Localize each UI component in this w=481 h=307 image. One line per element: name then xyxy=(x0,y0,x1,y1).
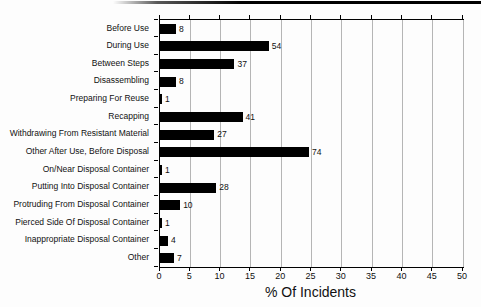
value-label: 8 xyxy=(179,77,184,86)
category-label: Inappropriate Disposal Container xyxy=(0,231,149,249)
category-label: Protruding From Disposal Container xyxy=(0,195,149,213)
bar xyxy=(160,147,309,157)
x-tick-label: 25 xyxy=(305,272,315,281)
category-label: Recapping xyxy=(0,107,149,125)
value-label: 41 xyxy=(246,113,255,122)
bar xyxy=(160,236,168,246)
bar-row: 8 xyxy=(160,73,463,91)
top-rule xyxy=(113,1,481,4)
x-axis-title: % Of Incidents xyxy=(159,285,462,300)
category-label: During Use xyxy=(0,37,149,55)
category-label: Between Steps xyxy=(0,54,149,72)
x-tick-labels: 05101520253035404550 xyxy=(159,272,462,283)
value-label: 10 xyxy=(183,201,192,210)
category-label: Before Use xyxy=(0,19,149,37)
category-label: Pierced Side Of Disposal Container xyxy=(0,213,149,231)
bar-row: 28 xyxy=(160,179,463,197)
category-label: Other xyxy=(0,248,149,266)
bar-row: 37 xyxy=(160,55,463,73)
x-tick-label: 20 xyxy=(275,272,285,281)
bar-row: 27 xyxy=(160,126,463,144)
category-labels: Before UseDuring UseBetween StepsDisasse… xyxy=(0,19,154,266)
bar-row: 7 xyxy=(160,249,463,267)
y-boundary-tick xyxy=(154,195,158,196)
bar xyxy=(160,59,234,69)
plot-area: 854378141277412810147 xyxy=(159,19,464,268)
bar xyxy=(160,200,180,210)
y-boundary-tick xyxy=(154,213,158,214)
y-boundary-tick xyxy=(154,54,158,55)
category-label: Putting Into Disposal Container xyxy=(0,178,149,196)
bar xyxy=(160,218,162,228)
y-boundary-tick xyxy=(154,71,158,72)
x-tick-label: 10 xyxy=(215,272,225,281)
bar xyxy=(160,41,269,51)
bar xyxy=(160,130,214,140)
x-tick-label: 0 xyxy=(156,272,161,281)
value-label: 1 xyxy=(165,219,170,228)
value-label: 37 xyxy=(237,60,246,69)
value-label: 54 xyxy=(272,42,281,51)
category-label: Disassembling xyxy=(0,72,149,90)
bar-row: 8 xyxy=(160,20,463,38)
x-tick-label: 40 xyxy=(396,272,406,281)
value-label: 8 xyxy=(179,25,184,34)
bar xyxy=(160,77,176,87)
bar xyxy=(160,183,216,193)
bar-row: 1 xyxy=(160,91,463,109)
value-label: 28 xyxy=(219,183,228,192)
value-label: 1 xyxy=(165,166,170,175)
category-label: Preparing For Reuse xyxy=(0,90,149,108)
y-boundary-tick xyxy=(154,266,158,267)
category-label: On/Near Disposal Container xyxy=(0,160,149,178)
figure: Before UseDuring UseBetween StepsDisasse… xyxy=(0,0,481,307)
bar xyxy=(160,112,243,122)
value-label: 1 xyxy=(165,95,170,104)
bar xyxy=(160,24,176,34)
bar-row: 4 xyxy=(160,232,463,250)
value-label: 74 xyxy=(312,148,321,157)
y-boundary-tick xyxy=(154,142,158,143)
y-boundary-tick xyxy=(154,36,158,37)
bar xyxy=(160,94,162,104)
y-boundary-tick xyxy=(154,107,158,108)
bar-row: 74 xyxy=(160,144,463,162)
category-label: Other After Use, Before Disposal xyxy=(0,143,149,161)
y-boundary-tick xyxy=(154,124,158,125)
y-boundary-tick xyxy=(154,177,158,178)
bar-row: 1 xyxy=(160,161,463,179)
y-boundary-tick xyxy=(154,248,158,249)
value-label: 27 xyxy=(217,130,226,139)
bar-row: 54 xyxy=(160,38,463,56)
y-boundary-tick xyxy=(154,230,158,231)
x-tick-label: 30 xyxy=(336,272,346,281)
x-tick-label: 45 xyxy=(427,272,437,281)
y-boundary-tick xyxy=(154,160,158,161)
bar-row: 10 xyxy=(160,196,463,214)
x-tick-label: 50 xyxy=(457,272,467,281)
bar-row: 41 xyxy=(160,108,463,126)
bar xyxy=(160,165,162,175)
x-tick-label: 35 xyxy=(366,272,376,281)
category-label: Withdrawing From Resistant Material xyxy=(0,125,149,143)
x-tick-label: 5 xyxy=(187,272,192,281)
bar-row: 1 xyxy=(160,214,463,232)
y-boundary-tick xyxy=(154,89,158,90)
bar xyxy=(160,253,174,263)
value-label: 4 xyxy=(171,236,176,245)
x-tick-label: 15 xyxy=(245,272,255,281)
value-label: 7 xyxy=(177,254,182,263)
y-boundary-tick xyxy=(154,19,158,20)
